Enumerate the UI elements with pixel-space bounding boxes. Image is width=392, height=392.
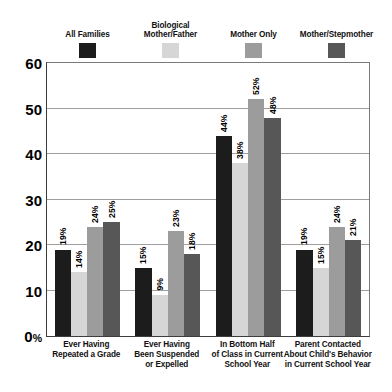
legend-swatch-icon bbox=[328, 43, 345, 58]
bar-column: 38% bbox=[232, 63, 248, 336]
bar bbox=[248, 99, 264, 336]
bar-value-label: 15% bbox=[316, 246, 325, 263]
bar bbox=[232, 163, 248, 336]
y-axis-tick-label: 60 bbox=[25, 56, 42, 71]
legend-item-label: Mother Only bbox=[230, 30, 277, 40]
bar-value-label: 52% bbox=[252, 78, 261, 95]
legend-swatch-icon bbox=[162, 43, 179, 58]
bar-value-label: 19% bbox=[300, 228, 309, 245]
bar bbox=[168, 231, 184, 336]
legend-item: Mother/Stepmother bbox=[295, 30, 378, 58]
bar-chart: All Families Biological Mother/Father Mo… bbox=[0, 0, 392, 392]
bar-value-label: 23% bbox=[172, 210, 181, 227]
legend-item-label: Mother/Stepmother bbox=[300, 30, 373, 40]
bar bbox=[313, 268, 329, 336]
y-axis-tick-label: 30 bbox=[25, 192, 42, 207]
y-axis: 0%102030405060 bbox=[0, 62, 42, 337]
bar-column: 21% bbox=[345, 63, 361, 336]
bar-value-label: 24% bbox=[333, 205, 342, 222]
bar-column: 24% bbox=[87, 63, 103, 336]
bar-value-label: 14% bbox=[75, 251, 84, 268]
bar-column: 9% bbox=[152, 63, 168, 336]
chart-legend: All Families Biological Mother/Father Mo… bbox=[46, 6, 378, 58]
bar-value-label: 48% bbox=[268, 96, 277, 113]
bar-group: 15%9%23%18% bbox=[135, 63, 200, 336]
bar bbox=[216, 136, 232, 336]
bar bbox=[329, 227, 345, 336]
y-axis-tick-label: 50 bbox=[25, 101, 42, 116]
bar-column: 48% bbox=[264, 63, 280, 336]
bar-value-label: 15% bbox=[139, 246, 148, 263]
y-axis-tick-label: 10 bbox=[25, 283, 42, 298]
bar-value-label: 19% bbox=[59, 228, 68, 245]
bar-value-label: 24% bbox=[91, 205, 100, 222]
bar-column: 19% bbox=[55, 63, 71, 336]
bar-group: 19%14%24%25% bbox=[55, 63, 120, 336]
bar-column: 52% bbox=[248, 63, 264, 336]
bar-value-label: 44% bbox=[220, 114, 229, 131]
legend-item: All Families bbox=[46, 30, 129, 58]
bar bbox=[345, 240, 361, 336]
legend-item-label: Biological Mother/Father bbox=[144, 21, 197, 40]
legend-item-label: All Families bbox=[65, 30, 109, 40]
bar bbox=[184, 254, 200, 336]
legend-swatch-icon bbox=[245, 43, 262, 58]
legend-item: Biological Mother/Father bbox=[129, 21, 212, 58]
x-axis-category-label: Ever Having Repeated a Grade bbox=[42, 340, 131, 360]
bar-value-label: 9% bbox=[155, 279, 164, 291]
legend-swatch-icon bbox=[79, 43, 96, 58]
bar-group: 44%38%52%48% bbox=[216, 63, 281, 336]
bar-column: 15% bbox=[313, 63, 329, 336]
bar-value-label: 38% bbox=[236, 142, 245, 159]
y-axis-tick-label: 0% bbox=[24, 329, 42, 344]
bar-value-label: 18% bbox=[188, 233, 197, 250]
legend-item: Mother Only bbox=[212, 30, 295, 58]
bar bbox=[103, 222, 119, 336]
bar bbox=[87, 227, 103, 336]
x-axis-category-label: In Bottom Half of Class in Current Schoo… bbox=[203, 340, 292, 371]
bars-layer: 19%14%24%25%15%9%23%18%44%38%52%48%19%15… bbox=[47, 63, 369, 336]
bar-column: 15% bbox=[135, 63, 151, 336]
bar-column: 24% bbox=[329, 63, 345, 336]
bar-value-label: 25% bbox=[107, 201, 116, 218]
bar-column: 14% bbox=[71, 63, 87, 336]
x-axis-category-label: Parent Contacted About Child's Behavior … bbox=[284, 340, 373, 371]
bar-value-label: 21% bbox=[349, 219, 358, 236]
x-axis-category-label: Ever Having Been Suspended or Expelled bbox=[123, 340, 212, 371]
bar bbox=[135, 268, 151, 336]
bar-column: 44% bbox=[216, 63, 232, 336]
bar-column: 19% bbox=[296, 63, 312, 336]
bar-column: 23% bbox=[168, 63, 184, 336]
bar bbox=[296, 250, 312, 336]
bar-column: 18% bbox=[184, 63, 200, 336]
bar bbox=[152, 295, 168, 336]
bar bbox=[55, 250, 71, 336]
bar-column: 25% bbox=[103, 63, 119, 336]
bar bbox=[71, 272, 87, 336]
bar-group: 19%15%24%21% bbox=[296, 63, 361, 336]
y-axis-tick-label: 40 bbox=[25, 147, 42, 162]
y-axis-tick-label: 20 bbox=[25, 238, 42, 253]
bar bbox=[264, 118, 280, 336]
x-axis: Ever Having Repeated a GradeEver Having … bbox=[46, 340, 370, 390]
